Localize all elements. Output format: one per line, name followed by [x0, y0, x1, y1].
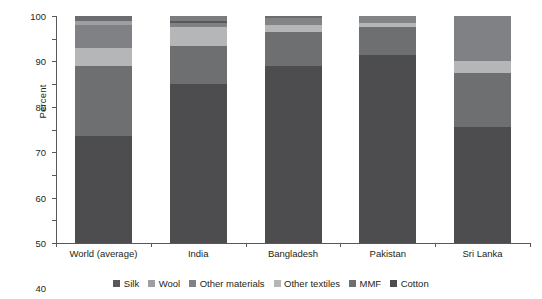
x-tick: [340, 243, 341, 247]
plot-area: 0102030405060708090100 World (average)In…: [56, 16, 530, 243]
bar-segment-mmf[interactable]: [359, 27, 416, 54]
x-tick: [56, 243, 57, 247]
legend-item[interactable]: Silk: [113, 278, 139, 289]
bar-segment-cotton[interactable]: [75, 136, 132, 243]
chart-legend: SilkWoolOther materialsOther textilesMMF…: [0, 278, 542, 289]
legend-label: Other textiles: [284, 278, 340, 289]
y-tick-label: 60: [35, 192, 46, 203]
bar-segment-cotton[interactable]: [454, 127, 511, 243]
bar-group[interactable]: [170, 16, 227, 243]
bar-segment-mmf[interactable]: [454, 73, 511, 127]
stacked-bar[interactable]: [265, 16, 322, 243]
stacked-bar-chart: Percent 0102030405060708090100 World (av…: [0, 0, 542, 299]
bar-segment-other-materials[interactable]: [75, 25, 132, 48]
x-tick: [151, 243, 152, 247]
legend-item[interactable]: Cotton: [390, 278, 429, 289]
y-tick-label: 100: [30, 11, 46, 22]
legend-swatch-icon: [113, 280, 120, 287]
x-tick: [246, 243, 247, 247]
legend-label: Wool: [159, 278, 180, 289]
bar-segment-other-textiles[interactable]: [454, 61, 511, 72]
bar-segment-cotton[interactable]: [359, 55, 416, 243]
y-tick-label: 80: [35, 101, 46, 112]
bar-segment-other-materials[interactable]: [359, 16, 416, 23]
bar-group[interactable]: [265, 16, 322, 243]
bar-segment-cotton[interactable]: [265, 66, 322, 243]
stacked-bar[interactable]: [170, 16, 227, 243]
y-tick: 10: [52, 220, 56, 221]
y-tick-label: 90: [35, 56, 46, 67]
bar-segment-other-textiles[interactable]: [359, 23, 416, 28]
legend-label: Other materials: [200, 278, 265, 289]
stacked-bar[interactable]: [359, 16, 416, 243]
x-tick: [530, 243, 531, 247]
y-tick: 80: [52, 61, 56, 62]
legend-swatch-icon: [274, 280, 281, 287]
y-tick: 70: [52, 84, 56, 85]
bar-segment-other-materials[interactable]: [170, 23, 227, 28]
legend-swatch-icon: [349, 280, 356, 287]
y-tick: 100: [52, 16, 56, 17]
y-tick: 30: [52, 175, 56, 176]
y-tick: 40: [52, 152, 56, 153]
bar-segment-silk[interactable]: [170, 16, 227, 21]
x-tick: [435, 243, 436, 247]
y-tick: 50: [52, 130, 56, 131]
bar-segment-mmf[interactable]: [170, 46, 227, 85]
legend-label: MMF: [360, 278, 382, 289]
bar-group[interactable]: [359, 16, 416, 243]
y-tick: 60: [52, 107, 56, 108]
legend-item[interactable]: Other materials: [189, 278, 264, 289]
bar-segment-other-materials[interactable]: [454, 16, 511, 61]
x-axis-line: [56, 243, 530, 244]
bar-segment-other-materials[interactable]: [265, 18, 322, 25]
bar-segment-wool[interactable]: [170, 21, 227, 23]
legend-swatch-icon: [390, 280, 397, 287]
bar-segment-other-textiles[interactable]: [265, 25, 322, 32]
y-tick-label: 50: [35, 238, 46, 249]
bar-segment-silk[interactable]: [265, 16, 322, 18]
x-axis-category-label: Sri Lanka: [413, 248, 542, 259]
y-tick: 20: [52, 198, 56, 199]
bar-segment-mmf[interactable]: [75, 66, 132, 136]
bar-group[interactable]: [454, 16, 511, 243]
stacked-bar[interactable]: [75, 16, 132, 243]
bar-segment-mmf[interactable]: [265, 32, 322, 66]
bar-segment-silk[interactable]: [75, 16, 132, 21]
bar-segment-other-textiles[interactable]: [75, 48, 132, 66]
legend-swatch-icon: [189, 280, 196, 287]
bar-segment-other-textiles[interactable]: [170, 27, 227, 45]
bar-segment-cotton[interactable]: [170, 84, 227, 243]
bar-segment-wool[interactable]: [75, 21, 132, 26]
legend-swatch-icon: [148, 280, 155, 287]
y-tick-label: 70: [35, 147, 46, 158]
bar-group[interactable]: [75, 16, 132, 243]
legend-item[interactable]: Other textiles: [274, 278, 340, 289]
legend-item[interactable]: Wool: [148, 278, 180, 289]
legend-label: Silk: [124, 278, 139, 289]
legend-item[interactable]: MMF: [349, 278, 381, 289]
y-axis-line: [56, 16, 57, 243]
legend-label: Cotton: [401, 278, 429, 289]
stacked-bar[interactable]: [454, 16, 511, 243]
y-tick: 90: [52, 39, 56, 40]
